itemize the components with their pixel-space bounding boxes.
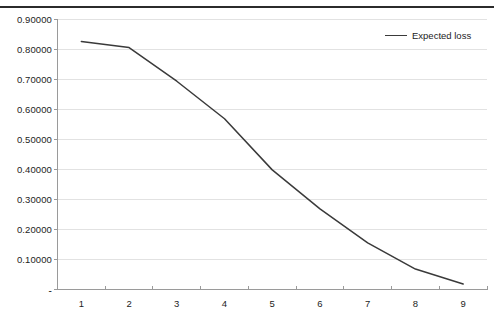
- x-tick-label: 5: [257, 298, 287, 309]
- y-tick-label: 0.50000: [0, 134, 52, 145]
- x-tick-label: 6: [305, 298, 335, 309]
- y-tick-label: 0.40000: [0, 164, 52, 175]
- x-tick-label: 3: [162, 298, 192, 309]
- y-tick-label: 0.10000: [0, 254, 52, 265]
- x-tick-label: 2: [114, 298, 144, 309]
- y-tick-label: 0.60000: [0, 104, 52, 115]
- chart-legend: Expected loss: [385, 30, 471, 41]
- x-tick-label: 8: [400, 298, 430, 309]
- legend-line-swatch-expected-loss: [385, 35, 407, 36]
- gridlines: [58, 19, 488, 259]
- x-tick-marks: [58, 286, 488, 290]
- expected-loss-line-chart: 0.900000.800000.700000.600000.500000.400…: [0, 0, 494, 327]
- y-tick-label: 0.70000: [0, 74, 52, 85]
- x-tick-label: 7: [353, 298, 383, 309]
- legend-label-expected-loss: Expected loss: [412, 30, 471, 41]
- y-tick-label: -: [0, 284, 52, 295]
- y-tick-label: 0.30000: [0, 194, 52, 205]
- y-tick-label: 0.80000: [0, 44, 52, 55]
- axis-lines: [58, 19, 488, 290]
- x-tick-label: 9: [448, 298, 478, 309]
- y-tick-label: 0.90000: [0, 14, 52, 25]
- x-tick-label: 4: [210, 298, 240, 309]
- y-tick-label: 0.20000: [0, 224, 52, 235]
- data-series-lines: [81, 42, 463, 285]
- y-tick-marks: [54, 19, 58, 290]
- plot-area: [0, 0, 494, 327]
- x-tick-label: 1: [66, 298, 96, 309]
- series-line-0: [81, 42, 463, 285]
